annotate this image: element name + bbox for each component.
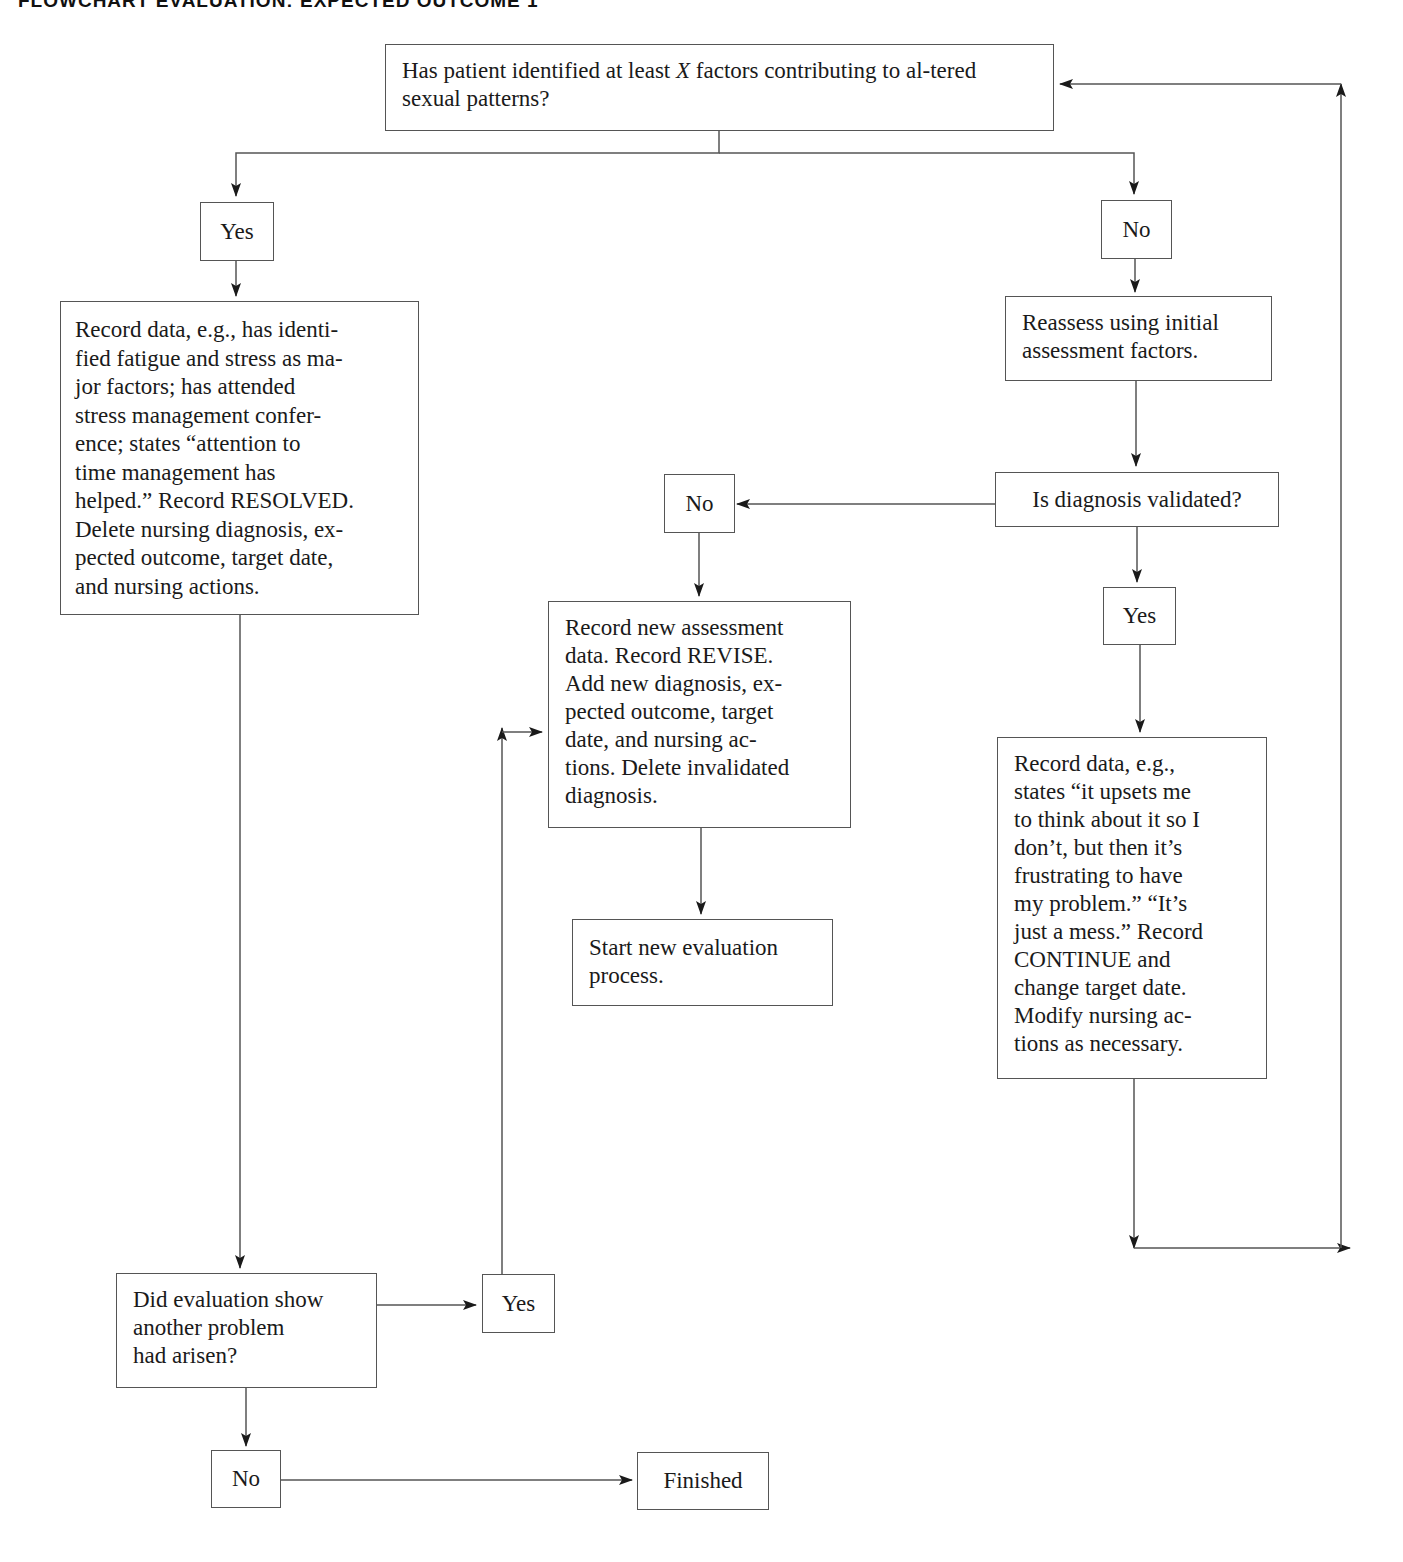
no-another-problem-label: No: [211, 1450, 281, 1508]
no-validated-label: No: [664, 474, 735, 533]
connector-top-to-no: [719, 153, 1134, 194]
reassess-box: Reassess using initial assessment factor…: [1005, 296, 1272, 381]
yes-branch-label: Yes: [200, 202, 274, 261]
connector-top-split: [236, 130, 719, 196]
no-branch-label: No: [1101, 200, 1172, 259]
start-new-evaluation-box: Start new evaluation process.: [572, 919, 833, 1006]
question-text-line-1: Has patient identified at least X factor…: [402, 57, 1037, 113]
question-another-problem: Did evaluation show another problem had …: [116, 1273, 377, 1388]
record-revise-box: Record new assessment data. Record REVIS…: [548, 601, 851, 828]
question-factors-identified: Has patient identified at least X factor…: [385, 44, 1054, 131]
yes-another-problem-label: Yes: [482, 1274, 555, 1333]
record-continue-box: Record data, e.g., states “it upsets me …: [997, 737, 1267, 1079]
finished-terminal: Finished: [637, 1452, 769, 1510]
variable-x: X: [676, 58, 690, 83]
record-resolved-box: Record data, e.g., has identi- fied fati…: [60, 301, 419, 615]
yes-validated-label: Yes: [1103, 587, 1176, 645]
question-diagnosis-validated: Is diagnosis validated?: [995, 472, 1279, 527]
